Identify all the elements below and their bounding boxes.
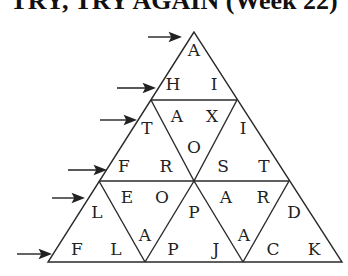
grid-letter: P [188, 204, 199, 221]
grid-letter: C [266, 241, 279, 258]
arrow-icon [100, 116, 135, 124]
grid-letter: I [240, 120, 247, 137]
arrow-icon [148, 33, 180, 41]
grid-letter: A [139, 227, 151, 244]
row-arrows [17, 33, 180, 258]
grid-letter: R [160, 158, 173, 175]
grid-letter: F [118, 158, 130, 175]
grid-letter: O [155, 189, 169, 206]
grid-letter: A [188, 42, 200, 59]
grid-letter: K [308, 241, 321, 258]
grid-letter: T [141, 120, 152, 137]
triangle-grid [0, 0, 348, 276]
grid-letter: S [217, 158, 229, 175]
grid-letter: O [187, 139, 201, 156]
grid-letter: E [121, 189, 133, 206]
grid-letter: D [287, 204, 301, 221]
grid-letter: I [211, 76, 218, 93]
grid-letter: F [71, 241, 83, 258]
grid-letter: H [166, 76, 181, 93]
grid-letter: P [167, 241, 178, 258]
grid-letter: A [171, 108, 183, 125]
arrow-icon [17, 250, 50, 258]
grid-letter: A [238, 227, 250, 244]
grid-letter: R [257, 189, 270, 206]
arrow-icon [52, 194, 83, 202]
grid-letter: A [220, 189, 232, 206]
arrow-icon [117, 84, 154, 92]
grid-letter: X [206, 108, 218, 125]
grid-letter: T [258, 158, 269, 175]
grid-letter: L [110, 241, 121, 258]
grid-letter: L [91, 204, 102, 221]
grid-letter: J [213, 241, 220, 258]
arrow-icon [68, 166, 105, 174]
